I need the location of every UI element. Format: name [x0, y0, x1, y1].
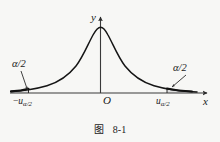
- caption-prefix: 图: [94, 124, 104, 135]
- normal-density-curve: [11, 27, 197, 92]
- y-axis-label: y: [91, 12, 96, 23]
- right-tail-area-label: α/2: [173, 63, 187, 74]
- right-alpha-leader-line: [172, 75, 186, 87]
- left-alpha-leader-line: [21, 71, 28, 90]
- right-critical-value-label: uα/2: [156, 97, 170, 108]
- x-axis-label: x: [203, 96, 208, 107]
- left-critical-value-label: −uα/2: [13, 97, 32, 108]
- figure-container: y x O α/2 α/2 −uα/2 uα/2 图8-1: [0, 0, 220, 142]
- right-tick-subscript: α/2: [161, 100, 170, 107]
- figure-caption: 图8-1: [0, 121, 220, 136]
- caption-number: 8-1: [113, 124, 126, 135]
- origin-label: O: [103, 95, 111, 106]
- left-tail-area-label: α/2: [12, 59, 26, 70]
- left-tick-subscript: α/2: [23, 100, 32, 107]
